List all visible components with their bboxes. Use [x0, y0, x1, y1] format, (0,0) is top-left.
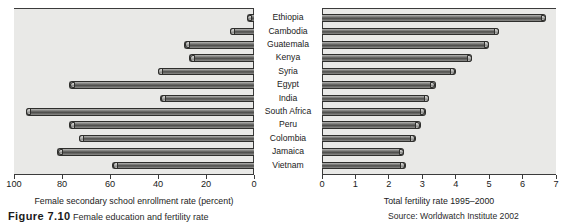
axis-tick-label: 6: [520, 179, 525, 190]
bar-end-cap: [247, 15, 252, 22]
right-bar-panel: [322, 8, 556, 175]
bar-end-cap: [158, 68, 163, 75]
bar-left: [158, 68, 254, 76]
bar-end-cap: [410, 135, 415, 142]
bar-end-cap: [26, 108, 31, 115]
bar-left: [57, 148, 254, 156]
axis-tick-label: 40: [153, 179, 163, 190]
bar-end-cap: [450, 68, 455, 75]
bar-left: [79, 135, 254, 143]
bar-end-cap: [113, 162, 118, 169]
bar-left: [230, 28, 254, 36]
bar-end-cap: [161, 95, 166, 102]
bar-right: [322, 81, 436, 89]
bar-row: [14, 94, 254, 103]
bar-right: [322, 148, 404, 156]
figure-number: Figure 7.10: [8, 211, 70, 222]
bar-end-cap: [70, 82, 75, 89]
bar-right: [322, 162, 406, 170]
bar-end-cap: [58, 149, 63, 156]
bar-end-cap: [400, 162, 405, 169]
bar-row: [14, 53, 254, 62]
left-axis-title: Female secondary school enrollment rate …: [14, 196, 254, 206]
bar-end-cap: [190, 55, 195, 62]
axis-tick-label: 2: [386, 179, 391, 190]
bar-row: [322, 80, 556, 89]
axis-tick-label: 80: [57, 179, 67, 190]
bar-left: [112, 162, 254, 170]
axis-tick-label: 100: [6, 179, 21, 190]
bar-row: [14, 107, 254, 116]
bar-row: [322, 161, 556, 170]
bar-row: [322, 27, 556, 36]
bar-end-cap: [230, 28, 235, 35]
bar-left: [189, 54, 254, 62]
bar-row: [322, 40, 556, 49]
axis-tick-label: 60: [105, 179, 115, 190]
axis-tick-label: 0: [251, 179, 256, 190]
country-label: Vietnam: [256, 161, 320, 170]
country-label: Guatemala: [256, 40, 320, 49]
country-label: South Africa: [256, 107, 320, 116]
country-label: Peru: [256, 120, 320, 129]
bar-right: [322, 135, 416, 143]
bar-row: [322, 67, 556, 76]
bar-end-cap: [541, 15, 546, 22]
country-label: Ethiopia: [256, 13, 320, 22]
bar-end-cap: [399, 149, 404, 156]
country-label: Syria: [256, 67, 320, 76]
bar-left: [247, 14, 254, 22]
bar-end-cap: [185, 41, 190, 48]
bar-left: [69, 81, 254, 89]
bar-row: [322, 120, 556, 129]
bar-right: [322, 108, 426, 116]
bar-end-cap: [494, 28, 499, 35]
bar-row: [322, 13, 556, 22]
bar-row: [322, 53, 556, 62]
bar-right: [322, 95, 429, 103]
bar-row: [14, 27, 254, 36]
bar-right: [322, 41, 489, 49]
bar-end-cap: [424, 95, 429, 102]
right-x-axis: 01234567: [322, 175, 556, 183]
bar-end-cap: [430, 82, 435, 89]
bar-right: [322, 28, 499, 36]
axis-tick-label: 4: [453, 179, 458, 190]
figure-caption-text: Female education and fertility rate: [73, 212, 209, 222]
bar-row: [14, 147, 254, 156]
country-label: Jamaica: [256, 147, 320, 156]
country-label: Colombia: [256, 134, 320, 143]
bar-end-cap: [420, 108, 425, 115]
bar-row: [14, 80, 254, 89]
bar-end-cap: [484, 41, 489, 48]
axis-tick-label: 5: [487, 179, 492, 190]
axis-tick-label: 1: [353, 179, 358, 190]
bar-row: [14, 120, 254, 129]
left-bar-panel: [14, 8, 254, 175]
figure-container: EthiopiaCambodiaGuatemalaKenyaSyriaEgypt…: [0, 0, 576, 224]
axis-tick-label: 0: [319, 179, 324, 190]
bar-row: [14, 134, 254, 143]
bar-left: [26, 108, 254, 116]
country-label-column: EthiopiaCambodiaGuatemalaKenyaSyriaEgypt…: [256, 8, 320, 175]
bar-row: [14, 40, 254, 49]
bar-end-cap: [70, 122, 75, 129]
left-x-axis: 100806040200: [14, 175, 254, 183]
country-label: India: [256, 94, 320, 103]
axis-tick-label: 7: [553, 179, 558, 190]
bar-row: [322, 134, 556, 143]
axis-tick-label: 20: [201, 179, 211, 190]
bar-right: [322, 68, 456, 76]
bar-left: [184, 41, 254, 49]
bar-end-cap: [415, 122, 420, 129]
country-label: Kenya: [256, 53, 320, 62]
bar-end-cap: [79, 135, 84, 142]
bar-row: [322, 147, 556, 156]
right-axis-title: Total fertility rate 1995–2000: [322, 196, 556, 206]
right-bar-rows: [322, 8, 556, 175]
country-label: Cambodia: [256, 27, 320, 36]
bar-end-cap: [467, 55, 472, 62]
bar-row: [14, 13, 254, 22]
bar-row: [14, 161, 254, 170]
figure-source: Source: Worldwatch Institute 2002: [388, 211, 519, 222]
